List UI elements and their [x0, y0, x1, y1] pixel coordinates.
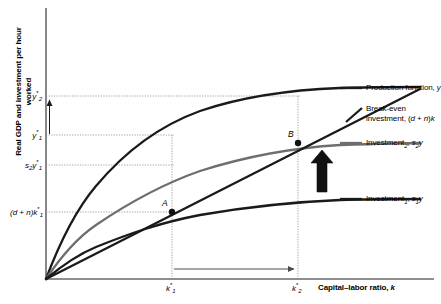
- x-tick-label-k1star: k*1: [166, 282, 176, 294]
- x-tick-k1star-sub: 1: [172, 288, 175, 294]
- y-tick-label-dnk1star: (d + n)k*1: [0, 206, 43, 218]
- legend-investment2-y: y: [419, 138, 423, 147]
- y-tick-dnk1star-sub: 1: [40, 212, 43, 218]
- legend-production-function-var: y: [437, 83, 441, 92]
- x-axis-title-var: k: [391, 283, 395, 292]
- x-axis-title-text: Capital–labor ratio,: [318, 283, 391, 292]
- legend-label-break-even: Break-even investment, (d + n)k: [366, 104, 435, 123]
- legend-production-function-text: Production function,: [366, 83, 437, 92]
- y-tick-s2y1star-sub: 1: [39, 165, 42, 171]
- legend-investment1-pre: Investment: [366, 194, 404, 203]
- legend-label-production-function: Production function, y: [366, 83, 441, 93]
- y-tick-label-y2star: y*2: [2, 90, 42, 102]
- solow-growth-model-chart: Real GDP and investment per hour worked …: [0, 0, 441, 304]
- y-tick-y1star-sub: 1: [39, 135, 42, 141]
- legend-sample-lines: [340, 88, 362, 199]
- legend-break-even-plus: +: [415, 114, 424, 123]
- legend-break-even-line1: Break-even: [366, 104, 406, 113]
- x-tick-k2star-sub: 2: [298, 288, 301, 294]
- legend-break-even-k: k: [431, 114, 435, 123]
- legend-label-investment2: Investment2, s2y: [366, 138, 423, 151]
- equilibrium-point-b-label: B: [288, 129, 294, 139]
- equilibrium-point-a-dot: [169, 209, 175, 215]
- equilibrium-point-b-dot: [295, 140, 301, 146]
- legend-label-investment1: Investment1, s1y: [366, 194, 423, 207]
- chart-canvas: [0, 0, 441, 304]
- x-tick-label-k2star: k*2: [292, 282, 302, 294]
- curve-investment2: [46, 143, 420, 279]
- x-axis-title: Capital–labor ratio, k: [318, 283, 395, 292]
- legend-break-even-line2-pre: investment, (: [366, 114, 411, 123]
- curve-investment1: [46, 199, 420, 279]
- curve-break-even-investment: [46, 89, 420, 279]
- saving-shift-arrow: [311, 150, 333, 192]
- legend-investment2-pre: Investment: [366, 138, 404, 147]
- equilibrium-point-a-label: A: [162, 198, 168, 208]
- legend-investment1-y: y: [419, 194, 423, 203]
- y-tick-y2star-sub: 2: [39, 96, 42, 102]
- y-tick-label-y1star: y*1: [2, 129, 42, 141]
- y-tick-label-s2y1star: s2y*1: [2, 159, 42, 171]
- y-tick-dnk1star-expr: (d + n)k: [10, 208, 37, 217]
